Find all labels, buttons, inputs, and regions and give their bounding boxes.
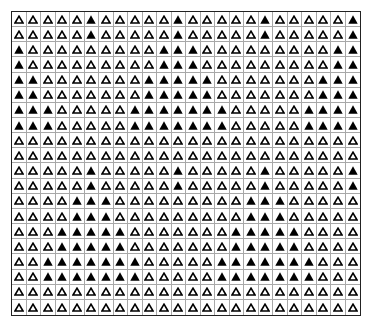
grid-cell [85,133,100,148]
hollow-triangle-icon [57,181,67,190]
grid-cell [114,133,129,148]
grid-cell [273,285,288,300]
filled-triangle-icon [188,105,198,114]
grid-cell [244,285,259,300]
grid-cell [186,133,201,148]
grid-cell [70,254,85,269]
hollow-triangle-icon [115,15,125,24]
grid-cell [259,42,274,57]
grid-cell [99,270,114,285]
grid-cell [288,270,303,285]
hollow-triangle-icon [43,227,53,236]
grid-cell [12,12,27,27]
filled-triangle-icon [72,242,82,251]
grid-cell [85,88,100,103]
grid-cell [259,285,274,300]
grid-cell [346,209,361,224]
hollow-triangle-icon [144,166,154,175]
grid-cell [317,209,332,224]
grid-cell [70,163,85,178]
grid-cell [273,133,288,148]
hollow-triangle-icon [72,181,82,190]
grid-cell [27,194,42,209]
filled-triangle-icon [202,105,212,114]
filled-triangle-icon [86,30,96,39]
grid-cell [172,239,187,254]
hollow-triangle-icon [28,196,38,205]
hollow-triangle-icon [115,60,125,69]
hollow-triangle-icon [304,30,314,39]
grid-cell [331,239,346,254]
hollow-triangle-icon [28,212,38,221]
grid-cell [27,88,42,103]
hollow-triangle-icon [260,121,270,130]
grid-cell [12,300,27,315]
grid-cell [157,12,172,27]
grid-cell [244,194,259,209]
hollow-triangle-icon [304,45,314,54]
grid-cell [41,148,56,163]
hollow-triangle-icon [188,303,198,312]
hollow-triangle-icon [144,272,154,281]
grid-cell [70,133,85,148]
grid-cell [56,163,71,178]
hollow-triangle-icon [217,136,227,145]
grid-cell [215,300,230,315]
grid-cell [259,254,274,269]
grid-cell [273,224,288,239]
hollow-triangle-icon [217,196,227,205]
hollow-triangle-icon [130,227,140,236]
grid-cell [230,209,245,224]
hollow-triangle-icon [173,257,183,266]
filled-triangle-icon [173,60,183,69]
hollow-triangle-icon [217,181,227,190]
grid-cell [56,118,71,133]
grid-cell [346,42,361,57]
grid-cell [172,224,187,239]
grid-cell [85,163,100,178]
filled-triangle-icon [43,105,53,114]
grid-cell [12,88,27,103]
filled-triangle-icon [173,45,183,54]
grid-cell [346,73,361,88]
filled-triangle-icon [348,60,358,69]
hollow-triangle-icon [289,181,299,190]
grid-cell [201,12,216,27]
filled-triangle-icon [275,196,285,205]
grid-cell [143,133,158,148]
grid-cell [346,12,361,27]
grid-cell [41,254,56,269]
grid-cell [128,73,143,88]
grid-cell [157,57,172,72]
grid-cell [143,254,158,269]
grid-cell [230,194,245,209]
grid-cell [172,285,187,300]
grid-cell [288,285,303,300]
grid-cell [172,133,187,148]
hollow-triangle-icon [289,212,299,221]
hollow-triangle-icon [14,166,24,175]
hollow-triangle-icon [130,30,140,39]
hollow-triangle-icon [231,166,241,175]
grid-cell [114,224,129,239]
hollow-triangle-icon [57,196,67,205]
hollow-triangle-icon [318,212,328,221]
hollow-triangle-icon [246,166,256,175]
grid-cell [85,209,100,224]
grid-cell [128,133,143,148]
grid-cell [346,88,361,103]
hollow-triangle-icon [72,90,82,99]
filled-triangle-icon [289,257,299,266]
hollow-triangle-icon [202,242,212,251]
filled-triangle-icon [348,45,358,54]
hollow-triangle-icon [159,151,169,160]
grid-cell [128,12,143,27]
hollow-triangle-icon [246,303,256,312]
hollow-triangle-icon [202,287,212,296]
hollow-triangle-icon [43,287,53,296]
grid-cell [27,179,42,194]
hollow-triangle-icon [144,151,154,160]
filled-triangle-icon [57,272,67,281]
grid-cell [143,179,158,194]
grid-cell [172,103,187,118]
